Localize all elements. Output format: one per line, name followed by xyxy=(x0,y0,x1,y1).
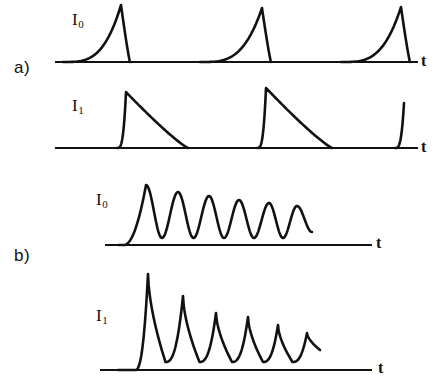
pulse-a-i1-1 xyxy=(117,92,188,148)
trace-label-a-i1-base: I xyxy=(72,96,78,115)
time-axis-label-a-i1: t xyxy=(421,138,426,156)
trace-label-a-i0-base: I xyxy=(72,10,78,29)
pulse-a-i1-2 xyxy=(257,88,332,148)
oscillation-b-i0 xyxy=(119,185,312,245)
time-axis-label-b-i1: t xyxy=(378,359,383,377)
trace-label-a-i1: I1 xyxy=(72,96,83,116)
time-axis-label-a-i0: t xyxy=(421,52,426,70)
trace-label-a-i0: I0 xyxy=(72,10,83,30)
panel-label-b: b) xyxy=(14,246,30,266)
pulse-a-i0-2 xyxy=(200,8,271,62)
pulse-a-i0-3 xyxy=(341,7,410,62)
trace-label-a-i1-sub: 1 xyxy=(78,104,84,116)
baseline-group xyxy=(55,62,418,370)
trace-label-b-i0: I0 xyxy=(96,190,107,210)
pulse-a-i1-3 xyxy=(395,103,404,148)
figure-canvas: a) b) I0 I1 I0 I1 t t t t xyxy=(0,0,443,391)
panel-label-a: a) xyxy=(14,58,30,78)
oscillation-b-i1 xyxy=(118,274,320,370)
trace-label-b-i0-base: I xyxy=(96,190,102,209)
trace-label-b-i1: I1 xyxy=(96,306,107,326)
trace-label-b-i0-sub: 0 xyxy=(102,198,108,210)
curve-group xyxy=(63,5,410,370)
signal-traces-svg xyxy=(0,0,443,391)
trace-label-a-i0-sub: 0 xyxy=(78,18,84,30)
trace-label-b-i1-base: I xyxy=(96,306,102,325)
time-axis-label-b-i0: t xyxy=(376,234,381,252)
trace-label-b-i1-sub: 1 xyxy=(102,314,108,326)
